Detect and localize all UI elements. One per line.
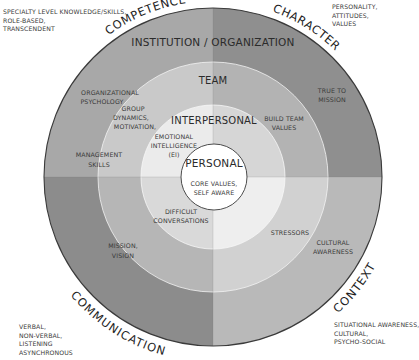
item-line: EMOTIONAL (155, 133, 194, 140)
item-line: GROUP (121, 105, 144, 112)
personal-core-circle (181, 144, 247, 210)
item-line: PSYCHOLOGY (80, 98, 123, 105)
ring-label-personal: PERSONAL (185, 157, 243, 169)
ring-label-institution: INSTITUTION / ORGANIZATION (131, 36, 294, 48)
item-line: CORE VALUES, (191, 180, 238, 187)
item-line: ORGANIZATIONAL (81, 89, 139, 96)
item-line: MOTIVATION, (114, 123, 156, 130)
item-line: INTELLIGENCE (151, 142, 197, 149)
item-line: (EI) (168, 151, 179, 158)
item-line: AWARENESS (313, 248, 353, 255)
item-line: SKILLS (88, 161, 110, 168)
item-line: DYNAMICS, (113, 114, 149, 121)
item-stressors: STRESSORS (271, 229, 309, 236)
item-line: TRUE TO (317, 87, 346, 94)
item-line: SELF AWARE (194, 189, 235, 196)
ring-label-team: TEAM (198, 75, 228, 86)
item-line: STRESSORS (271, 229, 309, 236)
item-line: DIFFICULT (165, 208, 197, 215)
item-line: CONVERSATIONS (153, 217, 208, 224)
item-line: CULTURAL (317, 239, 350, 246)
item-line: MISSION (318, 96, 346, 103)
item-line: MISSION, (108, 242, 138, 249)
item-line: BUILD TEAM (264, 115, 304, 122)
item-line: VALUES (272, 124, 297, 131)
item-line: MANAGEMENT (76, 151, 123, 158)
ring-label-interpersonal: INTERPERSONAL (171, 115, 257, 126)
item-line: VISION (112, 252, 134, 259)
